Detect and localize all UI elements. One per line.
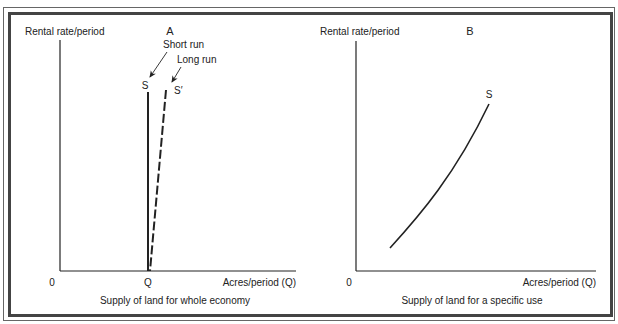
- panel-a-q-tick-label: Q: [144, 277, 152, 288]
- short-run-s-label: S: [142, 80, 149, 91]
- panel-b-letter: B: [466, 25, 473, 37]
- short-run-arrow: [150, 52, 167, 77]
- panel-b-origin-label: 0: [346, 277, 352, 288]
- panel-a-x-axis-label: Acres/period (Q): [223, 277, 296, 288]
- figure-canvas: Rental rate/period A 0 Q Acres/period (Q…: [0, 0, 618, 324]
- long-run-arrow: [172, 67, 181, 82]
- panel-b: Rental rate/period B 0 Acres/period (Q) …: [320, 25, 596, 306]
- long-run-supply-line: [150, 90, 166, 271]
- panel-a-origin-label: 0: [49, 277, 55, 288]
- panel-a-caption: Supply of land for whole economy: [100, 295, 250, 306]
- panel-b-s-label: S: [486, 89, 493, 100]
- long-run-annotation: Long run: [177, 54, 216, 65]
- specific-use-supply-curve: [390, 104, 489, 248]
- panel-a: Rental rate/period A 0 Q Acres/period (Q…: [25, 25, 296, 306]
- panel-a-letter: A: [166, 25, 174, 37]
- panel-b-x-axis-label: Acres/period (Q): [523, 277, 596, 288]
- panel-b-caption: Supply of land for a specific use: [401, 295, 543, 306]
- long-run-s-prime-label: S′: [174, 85, 183, 96]
- panel-b-y-axis-label: Rental rate/period: [320, 26, 400, 37]
- panel-a-y-axis-label: Rental rate/period: [25, 26, 105, 37]
- short-run-annotation: Short run: [163, 39, 204, 50]
